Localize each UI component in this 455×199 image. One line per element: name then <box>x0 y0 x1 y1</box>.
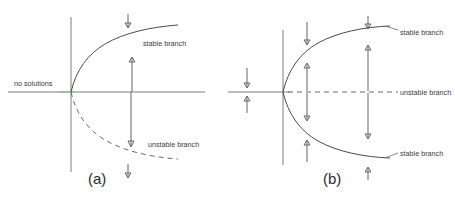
arrow-up-icon <box>365 167 371 180</box>
arrow-up-icon <box>365 45 371 91</box>
arrow-up-icon <box>244 96 250 113</box>
arrow-up-icon <box>129 57 135 92</box>
arrow-down-icon <box>304 93 310 121</box>
arrow-up-icon <box>304 140 310 162</box>
panel-b-lower-leader <box>385 153 398 158</box>
panel-a-stable-branch-curve <box>71 25 178 92</box>
panel-b-unstable-branch-label: unstable branch <box>400 88 451 97</box>
panel-a-caption: (a) <box>88 170 106 187</box>
panel-b: stable branch unstable branch stable bra… <box>228 16 451 187</box>
panel-a: no solutions stable branch unstable bran… <box>8 14 205 187</box>
panel-b-stable-branch-lower-label: stable branch <box>400 149 443 158</box>
arrow-down-icon <box>244 68 250 88</box>
panel-a-flow-arrows <box>125 14 135 178</box>
arrow-down-icon <box>125 164 131 178</box>
panel-b-stable-branch-lower-curve <box>283 92 390 158</box>
arrow-down-icon <box>365 93 371 139</box>
panel-b-upper-leader <box>385 26 398 30</box>
arrow-down-icon <box>128 92 134 147</box>
panel-b-flow-arrows <box>244 16 371 180</box>
bifurcation-figure: no solutions stable branch unstable bran… <box>0 0 455 199</box>
figure-canvas: no solutions stable branch unstable bran… <box>0 0 455 199</box>
panel-b-caption: (b) <box>323 170 341 187</box>
panel-b-stable-branch-upper-label: stable branch <box>400 28 443 37</box>
arrow-down-icon <box>125 14 131 28</box>
panel-a-stable-branch-label: stable branch <box>143 39 186 48</box>
panel-b-stable-branch-upper-curve <box>283 26 390 92</box>
arrow-down-icon <box>365 16 371 29</box>
panel-a-unstable-branch-label: unstable branch <box>148 140 199 149</box>
panel-a-no-solutions-label: no solutions <box>14 79 53 88</box>
arrow-down-icon <box>304 22 310 45</box>
arrow-up-icon <box>304 63 310 91</box>
